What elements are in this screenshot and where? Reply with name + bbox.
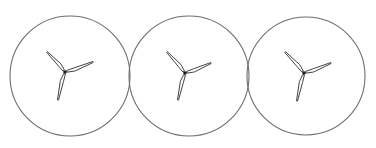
rotor-circle	[129, 16, 249, 136]
blade-icon	[285, 52, 304, 72]
blade-icon	[67, 62, 94, 73]
turbine-1	[10, 16, 130, 136]
blade-icon	[306, 63, 332, 74]
blade-icon	[58, 74, 66, 100]
blade-icon	[187, 63, 212, 74]
blade-icon	[47, 52, 65, 71]
rotor-circle	[247, 17, 365, 135]
hub-icon	[302, 71, 306, 75]
hub-icon	[183, 71, 187, 75]
turbine-rotor-diagram	[0, 0, 376, 148]
blade-icon	[167, 52, 185, 72]
rotor-circle	[10, 16, 130, 136]
hub-icon	[63, 70, 67, 74]
turbine-2	[129, 16, 249, 136]
turbine-3	[247, 17, 365, 135]
blade-icon	[178, 75, 186, 100]
blade-icon	[297, 75, 305, 101]
rotor-diagram-canvas	[0, 0, 376, 148]
